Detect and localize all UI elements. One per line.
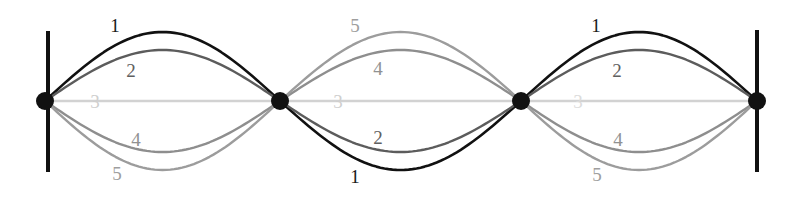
curve-label-3-right: 3 xyxy=(573,92,583,111)
curve-label-5-right: 5 xyxy=(592,165,602,184)
curve-label-4-left: 4 xyxy=(131,130,141,149)
curve-label-4-right: 4 xyxy=(613,130,623,149)
curve-label-5-left: 5 xyxy=(112,164,122,183)
curve-label-4-middle: 4 xyxy=(373,59,383,78)
curve-label-1-middle: 1 xyxy=(350,167,360,186)
curve-label-2-middle: 2 xyxy=(373,128,383,147)
curve-label-1-right: 1 xyxy=(591,16,601,35)
curve-label-3-middle: 3 xyxy=(333,92,343,111)
standing-wave-figure: 123455432112345 xyxy=(0,0,788,197)
node-second xyxy=(271,92,289,110)
curve-label-2-left: 2 xyxy=(126,61,136,80)
curve-label-2-right: 2 xyxy=(612,61,622,80)
node-third xyxy=(512,92,530,110)
node-right xyxy=(748,92,766,110)
curve-label-3-left: 3 xyxy=(90,92,100,111)
curve-label-1-left: 1 xyxy=(110,16,120,35)
curve-label-5-middle: 5 xyxy=(350,16,360,35)
curves-layer xyxy=(45,32,757,170)
node-left xyxy=(36,92,54,110)
